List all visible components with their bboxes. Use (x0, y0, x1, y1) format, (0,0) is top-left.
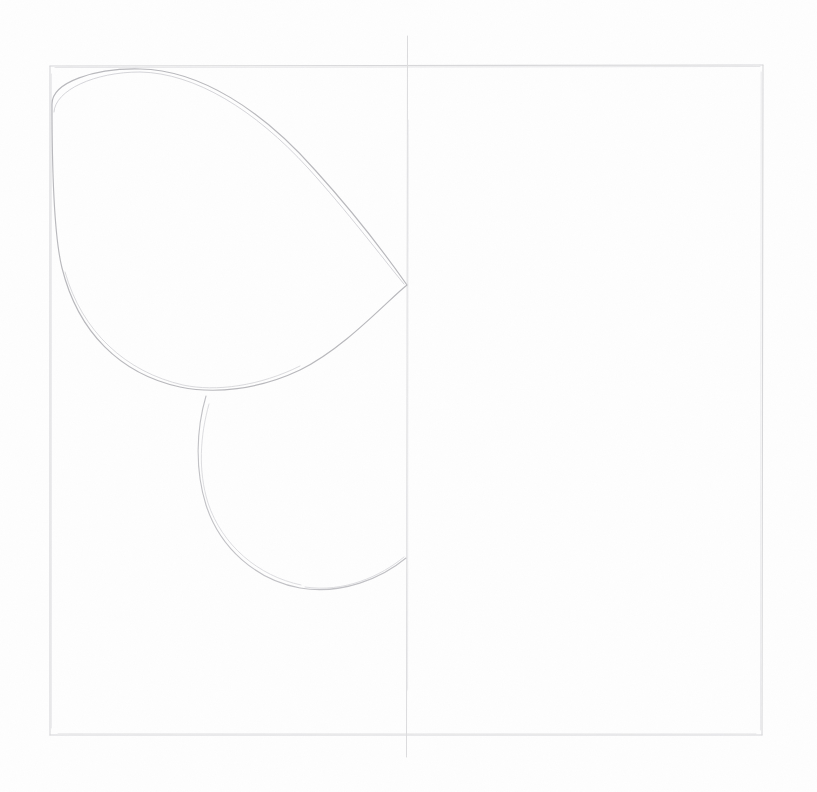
sketch-drawing (0, 0, 817, 792)
sketch-canvas (0, 0, 817, 792)
paper-grain-overlay (0, 0, 817, 792)
